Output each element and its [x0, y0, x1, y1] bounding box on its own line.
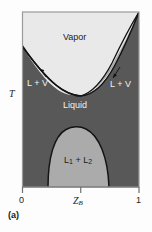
x-axis-label: ZB [73, 196, 83, 207]
l1l2-label-sub2: 2 [88, 158, 92, 165]
liquid-label: Liquid [63, 101, 87, 110]
x-axis-label-subscript: B [79, 199, 83, 207]
l1l2-label: L1 + L2 [64, 156, 92, 165]
lv-right-label: L + V [110, 80, 131, 89]
x-tick-label-0: 0 [19, 196, 24, 205]
figure-caption: (a) [8, 211, 19, 220]
vapor-label: Vapor [63, 33, 86, 42]
x-tick-label-1: 1 [136, 196, 141, 205]
phase-diagram-figure: T ZB 0 1 Vapor L + V L + V Liquid L1 + L… [0, 0, 152, 232]
y-axis-label: T [9, 89, 15, 99]
lv-left-label: L + V [27, 79, 48, 88]
l1l2-label-mid: + L [73, 155, 88, 165]
